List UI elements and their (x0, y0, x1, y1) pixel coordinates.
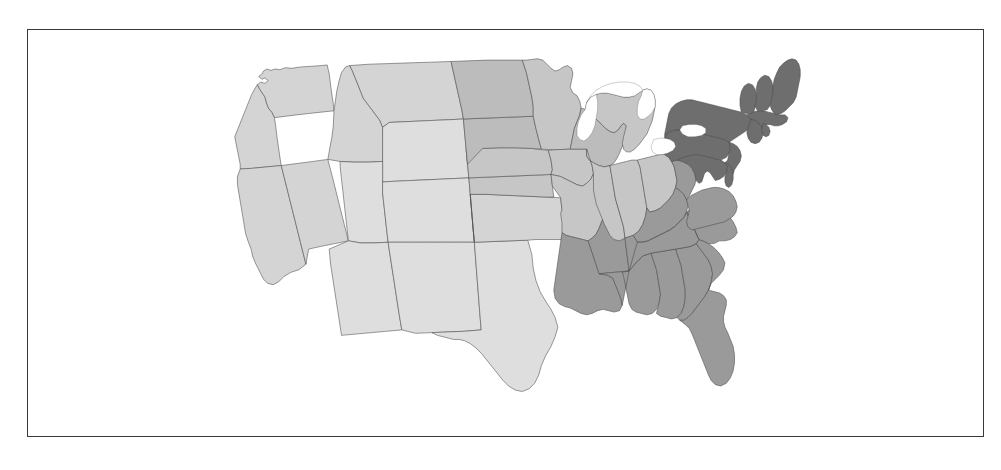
state-wy[interactable]: Wyoming (383, 119, 469, 182)
state-vt[interactable]: Vermont (740, 83, 756, 113)
state-me[interactable]: Maine (770, 59, 800, 115)
state-co[interactable]: Colorado (383, 178, 475, 242)
state-nm[interactable]: New Mexico (388, 242, 481, 333)
screenshot-root: WashingtonOregonCaliforniaNevadaIdahoMon… (0, 0, 1001, 470)
map-frame: WashingtonOregonCaliforniaNevadaIdahoMon… (27, 29, 984, 437)
state-ut[interactable]: Utah (340, 161, 388, 242)
state-nd[interactable]: North Dakota (451, 60, 533, 119)
state-ri[interactable]: Rhode Island (762, 123, 770, 137)
states-layer: WashingtonOregonCaliforniaNevadaIdahoMon… (235, 59, 801, 392)
us-choropleth-map: WashingtonOregonCaliforniaNevadaIdahoMon… (28, 30, 983, 436)
state-ok[interactable]: Oklahoma (470, 194, 566, 242)
